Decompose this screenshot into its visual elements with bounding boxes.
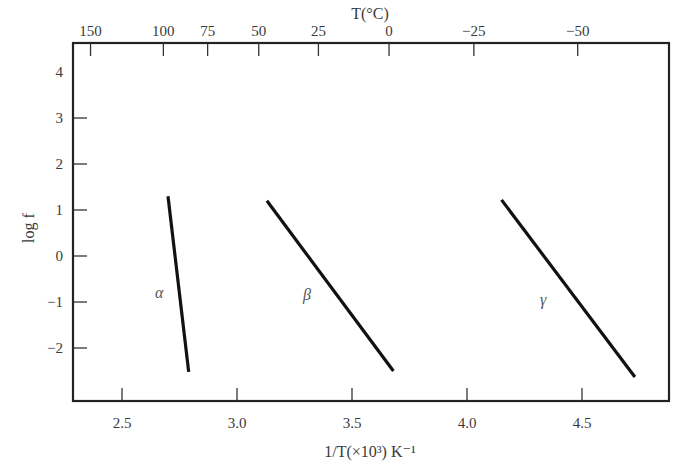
- top-axis-title: T(°C): [351, 5, 389, 23]
- x-axis-top: 1501007550250−25−50: [79, 23, 589, 56]
- x2-tick-label: 50: [251, 23, 266, 39]
- x2-tick-label: −50: [566, 23, 589, 39]
- y-tick-label: 2: [56, 156, 64, 172]
- x-tick-label: 3.0: [228, 415, 247, 431]
- series-label-gamma: γ: [540, 291, 547, 309]
- series-label-alpha: α: [155, 284, 164, 301]
- series-line-gamma: [502, 200, 635, 377]
- x-tick-label: 3.5: [343, 415, 362, 431]
- plot-border: [73, 43, 669, 401]
- y-tick-label: 3: [56, 110, 64, 126]
- chart-container: 2.53.03.54.04.5 43210−1−2 1501007550250−…: [0, 0, 688, 470]
- y-tick-label: 1: [56, 202, 64, 218]
- series-line-alpha: [168, 196, 189, 372]
- x2-tick-label: 150: [79, 23, 102, 39]
- relaxation-chart: 2.53.03.54.04.5 43210−1−2 1501007550250−…: [0, 0, 688, 470]
- y-tick-label: 4: [56, 64, 64, 80]
- x-axis-bottom: 2.53.03.54.04.5: [113, 388, 592, 431]
- series-label-beta: β: [302, 286, 311, 304]
- series-line-beta: [267, 201, 394, 371]
- y-tick-label: −1: [47, 294, 63, 310]
- x-tick-label: 4.0: [458, 415, 477, 431]
- x-tick-label: 2.5: [113, 415, 132, 431]
- x2-tick-label: 25: [311, 23, 326, 39]
- x2-tick-label: 0: [385, 23, 393, 39]
- y-axis-title: log f: [20, 212, 38, 242]
- x-tick-label: 4.5: [573, 415, 592, 431]
- y-tick-label: −2: [47, 340, 63, 356]
- y-axis-left: 43210−1−2: [47, 64, 87, 356]
- series-lines: [168, 196, 635, 377]
- x2-tick-label: 75: [200, 23, 215, 39]
- x2-tick-label: −25: [462, 23, 485, 39]
- x-axis-title: 1/T(×10³) K⁻¹: [324, 443, 416, 461]
- x2-tick-label: 100: [152, 23, 175, 39]
- plot-frame: [73, 43, 669, 401]
- y-tick-label: 0: [56, 248, 64, 264]
